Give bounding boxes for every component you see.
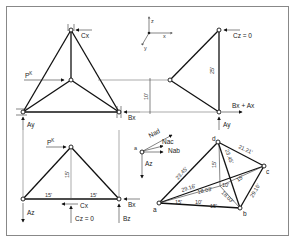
- side-view-truss: Cz = 0 25' 10' Bx + Ax Ay: [98, 28, 255, 130]
- svg-text:Az: Az: [145, 160, 153, 167]
- node-a: [21, 110, 25, 114]
- label-load-2: PK: [47, 138, 54, 146]
- svg-text:x: x: [163, 33, 166, 39]
- svg-text:y: y: [144, 45, 147, 51]
- svg-text:Bz: Bz: [123, 215, 131, 222]
- dim-25: 25': [209, 67, 215, 74]
- svg-text:a: a: [134, 145, 138, 151]
- dim-10: 10': [143, 93, 149, 100]
- label-load: PK: [25, 71, 32, 79]
- svg-text:Nac: Nac: [162, 138, 174, 145]
- svg-text:Ay: Ay: [223, 121, 231, 129]
- svg-text:23.45': 23.45': [224, 148, 235, 164]
- svg-text:c: c: [266, 168, 270, 175]
- svg-text:15': 15': [210, 203, 217, 209]
- svg-text:Az: Az: [27, 209, 35, 216]
- svg-text:Nab: Nab: [168, 147, 180, 154]
- svg-text:18.03': 18.03': [197, 186, 213, 195]
- free-body-node-a: a Nad Nac Nab Az: [134, 127, 180, 178]
- truss-diagram: Cx PK Ay Bx z x y Cz = 0 25' 10': [0, 0, 295, 243]
- svg-text:15': 15': [211, 161, 217, 168]
- svg-text:Cx: Cx: [80, 202, 89, 209]
- svg-text:23.45': 23.45': [174, 166, 188, 181]
- svg-text:15': 15': [45, 192, 52, 198]
- svg-text:b: b: [243, 210, 247, 217]
- top-view-truss: PK 15' 15' 15' Cx Cz = 0 Az Bx Bz: [21, 130, 140, 223]
- label-cz: Cz = 0: [233, 32, 252, 39]
- svg-text:15': 15': [64, 171, 70, 178]
- svg-text:Nad: Nad: [147, 127, 161, 139]
- svg-text:29.16': 29.16': [180, 183, 196, 193]
- svg-text:15': 15': [175, 199, 182, 205]
- front-view-truss: Cx PK Ay Bx: [16, 24, 140, 130]
- svg-text:z: z: [151, 18, 154, 24]
- svg-text:d: d: [212, 135, 216, 142]
- svg-text:10': 10': [222, 182, 229, 188]
- label-bx-ax: Bx + Ax: [232, 102, 255, 109]
- node-c: [69, 28, 73, 32]
- axes-icon: z x y: [142, 17, 172, 51]
- svg-text:15': 15': [90, 192, 97, 198]
- svg-text:Bx: Bx: [128, 201, 136, 208]
- svg-text:18.03': 18.03': [220, 189, 235, 204]
- label-ay: Ay: [27, 121, 35, 129]
- svg-text:a: a: [153, 206, 157, 213]
- svg-text:Cz = 0: Cz = 0: [75, 215, 94, 222]
- label-cx: Cx: [81, 32, 90, 39]
- svg-text:10': 10': [195, 199, 202, 205]
- svg-text:29.16': 29.16': [249, 183, 262, 199]
- label-bx: Bx: [128, 114, 136, 121]
- node-b: [117, 110, 121, 114]
- node-d: [69, 78, 73, 82]
